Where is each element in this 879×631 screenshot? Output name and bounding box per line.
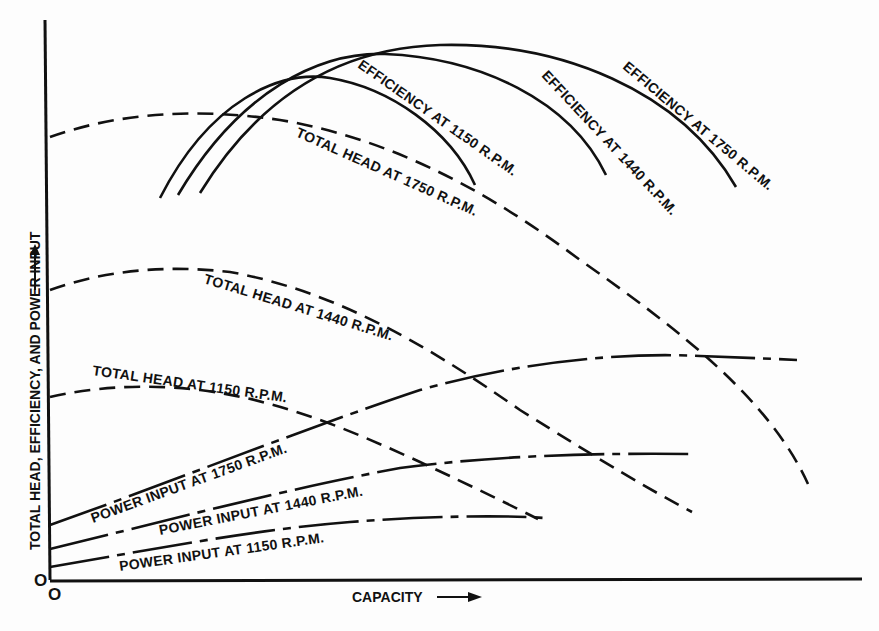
x-origin-label: O <box>48 585 61 604</box>
total-head-1150-label: TOTAL HEAD AT 1150 R.P.M. <box>92 362 289 405</box>
total-head-1440-curve <box>50 269 692 512</box>
total-head-1750-label: TOTAL HEAD AT 1750 R.P.M. <box>294 124 481 219</box>
total-head-1440-label: TOTAL HEAD AT 1440 R.P.M. <box>202 271 395 344</box>
total-head-1750-curve <box>50 113 808 484</box>
x-axis-label: CAPACITY <box>352 589 423 605</box>
y-axis-label-group: TOTAL HEAD, EFFICIENCY, AND POWER INPUT <box>27 231 43 550</box>
x-axis-arrow-icon <box>437 592 482 602</box>
pump-performance-chart: TOTAL HEAD, EFFICIENCY, AND POWER INPUT … <box>0 0 879 631</box>
power-input-1150-label: POWER INPUT AT 1150 R.P.M. <box>118 529 325 574</box>
x-axis <box>50 579 862 581</box>
y-axis <box>45 20 50 580</box>
total-head-curves <box>50 113 808 519</box>
y-origin-label: O <box>34 571 47 590</box>
